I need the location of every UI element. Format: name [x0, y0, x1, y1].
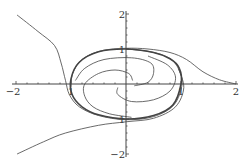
y-tick-label-neg2: −2 — [110, 149, 125, 160]
curve-inner-spiral-2 — [75, 58, 153, 86]
curve-trajectory-top-left — [17, 15, 182, 120]
phase-portrait-plot: −2 1 1 2 2 1 1 −2 — [0, 0, 251, 168]
y-tick-label-2: 2 — [119, 9, 125, 20]
curve-inner-spiral-1 — [83, 70, 132, 117]
x-tick-label-neg2: −2 — [6, 86, 21, 97]
axes: −2 1 1 2 2 1 1 −2 — [6, 9, 240, 160]
x-tick-label-2: 2 — [233, 86, 239, 97]
